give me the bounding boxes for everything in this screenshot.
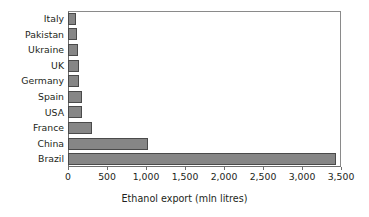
bar bbox=[68, 13, 76, 25]
bar bbox=[68, 28, 77, 40]
category-label: USA bbox=[45, 105, 64, 121]
bar bbox=[68, 153, 336, 165]
category-label: Ukraine bbox=[28, 42, 64, 58]
category-label: UK bbox=[51, 58, 64, 74]
bar-row bbox=[68, 11, 341, 27]
tick-label: 0 bbox=[65, 171, 71, 182]
bar bbox=[68, 60, 79, 72]
category-label: Spain bbox=[38, 89, 64, 105]
bar-row bbox=[68, 27, 341, 43]
value-axis-ticks: 05001,0001,5002,0002,5003,0003,500 bbox=[68, 167, 341, 189]
bar bbox=[68, 44, 78, 56]
bar bbox=[68, 91, 82, 103]
bar-row bbox=[68, 151, 341, 167]
tick-mark bbox=[146, 167, 147, 170]
bar bbox=[68, 106, 82, 118]
bar bbox=[68, 75, 79, 87]
bar-row bbox=[68, 73, 341, 89]
tick-label: 3,500 bbox=[328, 171, 355, 182]
category-label: Brazil bbox=[38, 151, 64, 167]
bar-row bbox=[68, 89, 341, 105]
bar-row bbox=[68, 42, 341, 58]
tick-label: 2,000 bbox=[211, 171, 238, 182]
bar-row bbox=[68, 58, 341, 74]
tick-label: 1,500 bbox=[172, 171, 199, 182]
tick-label: 3,000 bbox=[289, 171, 316, 182]
category-label: Pakistan bbox=[25, 27, 64, 43]
tick-mark bbox=[224, 167, 225, 170]
tick-mark bbox=[263, 167, 264, 170]
tick-mark bbox=[68, 167, 69, 170]
tick-label: 500 bbox=[98, 171, 116, 182]
category-label: China bbox=[37, 136, 64, 152]
bar bbox=[68, 122, 92, 134]
category-label: France bbox=[33, 120, 64, 136]
tick-mark bbox=[341, 167, 342, 170]
x-axis-title: Ethanol export (mln litres) bbox=[0, 193, 369, 204]
bar-chart-figure: ItalyPakistanUkraineUKGermanySpainUSAFra… bbox=[0, 0, 369, 217]
tick-label: 1,000 bbox=[133, 171, 160, 182]
tick-mark bbox=[107, 167, 108, 170]
category-label: Italy bbox=[44, 11, 64, 27]
category-axis-labels: ItalyPakistanUkraineUKGermanySpainUSAFra… bbox=[0, 11, 64, 167]
tick-mark bbox=[302, 167, 303, 170]
bar-row bbox=[68, 120, 341, 136]
tick-mark bbox=[185, 167, 186, 170]
bar bbox=[68, 138, 148, 150]
bar-row bbox=[68, 136, 341, 152]
bar-row bbox=[68, 105, 341, 121]
bar-series bbox=[68, 11, 341, 167]
tick-label: 2,500 bbox=[250, 171, 277, 182]
category-label: Germany bbox=[21, 73, 64, 89]
